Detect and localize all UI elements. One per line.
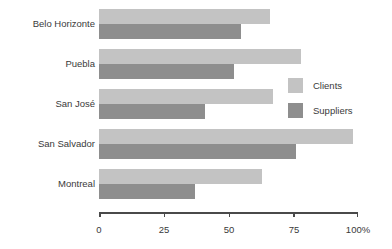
- x-axis-label-0: 0: [69, 224, 129, 235]
- x-axis-tick-100: [357, 212, 359, 217]
- bar-suppliers-san-jose: [99, 104, 205, 119]
- bar-clients-puebla: [99, 49, 301, 64]
- x-axis-label-25: 25: [134, 224, 194, 235]
- category-label-san-jose: San José: [0, 99, 95, 109]
- legend-item-clients: Clients: [288, 76, 353, 94]
- x-axis-tick-25: [164, 212, 166, 217]
- category-label-montreal: Montreal: [0, 179, 95, 189]
- x-axis-label-75: 75: [264, 224, 324, 235]
- bar-clients-san-jose: [99, 89, 273, 104]
- bar-suppliers-san-salvador: [99, 144, 296, 159]
- chart-legend: Clients Suppliers: [288, 76, 353, 126]
- bar-suppliers-puebla: [99, 64, 234, 79]
- bar-clients-belo-horizonte: [99, 9, 270, 24]
- category-label-puebla: Puebla: [0, 59, 95, 69]
- legend-item-suppliers: Suppliers: [288, 101, 353, 119]
- bar-chart: Belo Horizonte Puebla San José San Salva…: [0, 0, 392, 249]
- x-axis-label-100: 100%: [328, 224, 388, 235]
- legend-swatch-suppliers-icon: [288, 103, 303, 118]
- x-axis-tick-75: [293, 212, 295, 217]
- legend-label-clients: Clients: [313, 80, 342, 91]
- bar-clients-san-salvador: [99, 129, 353, 144]
- bar-suppliers-montreal: [99, 184, 195, 199]
- bar-clients-montreal: [99, 169, 262, 184]
- legend-swatch-clients-icon: [288, 78, 303, 93]
- legend-label-suppliers: Suppliers: [313, 105, 353, 116]
- bar-suppliers-belo-horizonte: [99, 24, 241, 39]
- category-label-san-salvador: San Salvador: [0, 139, 95, 149]
- category-label-belo-horizonte: Belo Horizonte: [0, 19, 95, 29]
- x-axis-tick-50: [229, 212, 231, 217]
- x-axis-label-50: 50: [199, 224, 259, 235]
- x-axis-tick-0: [99, 212, 101, 217]
